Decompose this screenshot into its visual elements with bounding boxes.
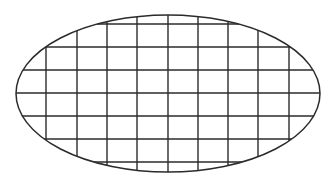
ellipse-grid-diagram [0, 0, 333, 185]
grid-lines [0, 0, 333, 185]
